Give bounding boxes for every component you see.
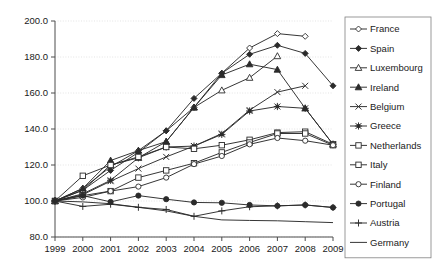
data-point-marker [274,53,281,59]
legend-item-label: Germany [370,237,409,248]
data-point-marker [107,177,114,184]
data-point-marker [136,184,141,189]
data-point-marker [108,189,113,194]
data-point-marker [356,182,361,187]
data-point-marker [330,143,335,148]
series-group [51,31,336,223]
legend-item-label: Belgium [370,101,404,112]
data-point-marker [355,122,362,129]
data-point-marker [246,107,253,114]
legend-item-label: Italy [370,159,388,170]
data-point-marker [163,154,169,160]
x-axis-tick-label: 2004 [183,243,204,254]
data-point-marker [246,74,253,80]
data-point-marker [330,204,337,211]
data-point-marker [356,201,361,206]
y-axis-tick-label: 100.0 [24,195,48,206]
data-point-marker [303,138,308,143]
data-point-marker [274,31,280,37]
x-axis-tick-label: 2001 [100,243,121,254]
data-point-marker [164,168,169,173]
data-point-marker [164,144,169,149]
data-point-marker [356,162,361,167]
x-axis-tick-label: 2006 [239,243,260,254]
data-point-marker [79,203,86,210]
legend-item-label: Luxembourg [370,62,423,73]
series-line [55,34,305,201]
series-france [52,31,308,204]
x-axis-tick-label: 1999 [44,243,65,254]
x-axis-tick-label: 2009 [322,243,343,254]
data-point-marker [164,175,169,180]
data-point-marker [302,105,309,112]
data-point-marker [356,143,361,148]
data-point-marker [219,143,224,148]
data-point-marker [219,153,224,158]
x-axis-tick-label: 2003 [156,243,177,254]
data-point-marker [191,200,196,205]
data-point-marker [191,162,196,167]
data-point-marker [136,175,141,180]
x-axis-tick-label: 2008 [295,243,316,254]
data-point-marker [247,142,252,147]
data-point-marker [219,87,226,93]
y-axis-tick-label: 80.0 [30,231,49,242]
data-point-marker [275,135,280,140]
series-portugal [52,193,335,210]
y-axis-tick-label: 140.0 [24,123,48,134]
x-axis-tick-label: 2000 [72,243,93,254]
data-point-marker [80,193,85,198]
series-line [55,107,333,202]
data-point-marker [219,200,224,205]
legend-item-label: Portugal [370,198,405,209]
data-point-marker [218,207,225,214]
legend-item-label: Netherlands [370,140,421,151]
data-point-marker [164,197,169,202]
data-point-marker [218,131,225,138]
data-point-marker [274,202,281,209]
line-chart: 80.0100.0120.0140.0160.0180.0200.0 19992… [0,0,437,272]
y-axis-tick-label: 160.0 [24,87,48,98]
data-point-marker [136,193,141,198]
legend-item-label: Greece [370,120,401,131]
data-point-marker [247,51,253,57]
y-axis: 80.0100.0120.0140.0160.0180.0200.0 [24,15,55,242]
data-point-marker [191,146,196,151]
x-axis-tick-label: 2002 [128,243,149,254]
data-point-marker [274,42,280,48]
data-point-marker [80,173,85,178]
legend-item-label: Spain [370,43,394,54]
data-point-marker [163,206,170,213]
data-point-marker [108,162,113,167]
x-axis-tick-label: 2005 [211,243,232,254]
chart-legend: FranceSpainLuxembourgIrelandBelgiumGreec… [345,17,431,258]
series-italy [52,131,335,204]
y-axis-tick-label: 120.0 [24,159,48,170]
data-point-marker [135,166,141,172]
data-point-marker [136,154,141,159]
y-axis-tick-label: 180.0 [24,51,48,62]
chart-canvas: 80.0100.0120.0140.0160.0180.0200.0 19992… [0,0,437,272]
data-point-marker [274,103,281,110]
legend-item-label: France [370,23,400,34]
data-point-marker [246,61,253,67]
legend-item-label: Ireland [370,82,399,93]
data-point-marker [303,131,308,136]
x-axis: 1999200020012002200320042005200620072008… [44,237,343,254]
data-point-marker [302,201,309,208]
series-belgium [52,83,308,204]
x-axis-tick-label: 2007 [267,243,288,254]
y-axis-tick-label: 200.0 [24,15,48,26]
legend-item-label: Austria [370,217,400,228]
data-point-marker [302,33,308,39]
legend-item-label: Finland [370,179,401,190]
